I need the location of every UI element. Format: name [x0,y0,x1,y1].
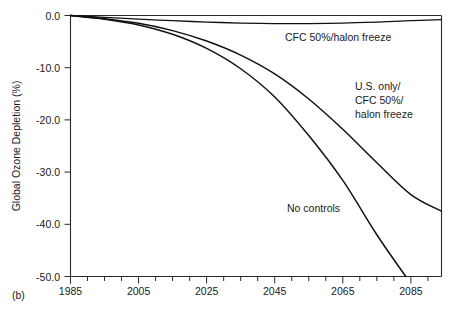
x-tick-label-1985: 1985 [59,285,83,297]
y-axis-tick-labels: 0.0 -10.0 -20.0 -30.0 -40.0 -50.0 [36,10,60,283]
chart-canvas: 0.0 -10.0 -20.0 -30.0 -40.0 -50.0 1985 2… [0,0,459,313]
y-tick-label-1: -10.0 [36,62,60,74]
series-label-us-only-line3: halon freeze [355,108,413,120]
y-axis-ticks [65,16,71,277]
data-series-group [71,16,442,277]
series-label-cfc-halon-freeze: CFC 50%/halon freeze [285,31,391,43]
plot-frame [71,16,442,277]
y-axis-title: Global Ozone Depletion (%) [10,81,22,212]
y-tick-label-0: 0.0 [45,10,60,22]
panel-label: (b) [12,289,25,301]
x-tick-label-2065: 2065 [331,285,355,297]
series-annotations: CFC 50%/halon freeze U.S. only/ CFC 50%/… [285,31,413,214]
series-label-us-only-line2: CFC 50%/ [355,94,404,106]
y-tick-label-4: -40.0 [36,218,60,230]
series-label-no-controls: No controls [287,202,340,214]
x-axis-tick-labels: 1985 2005 2025 2045 2065 2085 [59,285,423,297]
x-tick-label-2005: 2005 [127,285,151,297]
y-tick-label-2: -20.0 [36,114,60,126]
y-tick-label-3: -30.0 [36,166,60,178]
x-axis-ticks [71,272,428,284]
x-tick-label-2025: 2025 [195,285,219,297]
x-tick-label-2085: 2085 [399,285,423,297]
series-label-us-only-line1: U.S. only/ [355,80,401,92]
ozone-depletion-figure: 0.0 -10.0 -20.0 -30.0 -40.0 -50.0 1985 2… [0,0,459,313]
y-tick-label-5: -50.0 [36,271,60,283]
x-tick-label-2045: 2045 [263,285,287,297]
